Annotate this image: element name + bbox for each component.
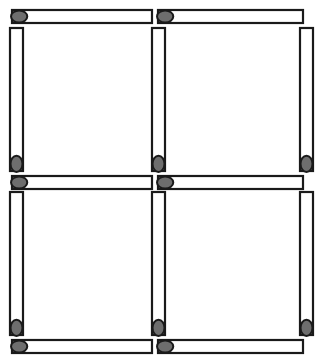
match-right-upper-vertical-body — [300, 28, 313, 171]
match-center-upper-vertical-head-icon — [153, 156, 165, 172]
match-center-lower-vertical-body — [152, 192, 165, 335]
match-middle-right-head-icon — [157, 177, 173, 189]
matchstick-puzzle-canvas: Top left horizontal matchTop right horiz… — [0, 0, 323, 363]
match-middle-left-body — [12, 176, 152, 189]
match-right-lower-vertical-head-icon — [301, 320, 313, 336]
match-right-upper-vertical-head-icon — [301, 156, 313, 172]
match-bottom-right[interactable]: Bottom right horizontal match — [157, 340, 303, 353]
match-left-upper-vertical[interactable]: Left upper vertical match — [10, 28, 23, 172]
match-top-left-head-icon — [11, 11, 27, 23]
match-middle-right[interactable]: Middle right horizontal match — [157, 176, 303, 189]
match-bottom-left-body — [12, 340, 152, 353]
match-left-upper-vertical-body — [10, 28, 23, 171]
match-left-upper-vertical-head-icon — [11, 156, 23, 172]
match-middle-left-head-icon — [11, 177, 27, 189]
match-right-lower-vertical-body — [300, 192, 313, 335]
match-left-lower-vertical[interactable]: Left lower vertical match — [10, 192, 23, 336]
match-right-upper-vertical[interactable]: Right upper vertical match — [300, 28, 313, 172]
match-top-left[interactable]: Top left horizontal match — [11, 10, 152, 23]
match-left-lower-vertical-body — [10, 192, 23, 335]
match-bottom-left-head-icon — [11, 341, 27, 353]
match-top-left-body — [12, 10, 152, 23]
match-center-lower-vertical[interactable]: Center lower vertical match — [152, 192, 165, 336]
match-center-upper-vertical[interactable]: Center upper vertical match — [152, 28, 165, 172]
match-middle-left[interactable]: Middle left horizontal match — [11, 176, 152, 189]
match-bottom-right-head-icon — [157, 341, 173, 353]
match-top-right-body — [158, 10, 303, 23]
match-center-lower-vertical-head-icon — [153, 320, 165, 336]
match-bottom-right-body — [158, 340, 303, 353]
match-middle-right-body — [158, 176, 303, 189]
match-center-upper-vertical-body — [152, 28, 165, 171]
match-top-right-head-icon — [157, 11, 173, 23]
match-top-right[interactable]: Top right horizontal match — [157, 10, 303, 23]
match-left-lower-vertical-head-icon — [11, 320, 23, 336]
match-right-lower-vertical[interactable]: Right lower vertical match — [300, 192, 313, 336]
matches-group: Top left horizontal matchTop right horiz… — [10, 10, 313, 353]
match-bottom-left[interactable]: Bottom left horizontal match — [11, 340, 152, 353]
matchstick-layer: Top left horizontal matchTop right horiz… — [0, 0, 323, 363]
